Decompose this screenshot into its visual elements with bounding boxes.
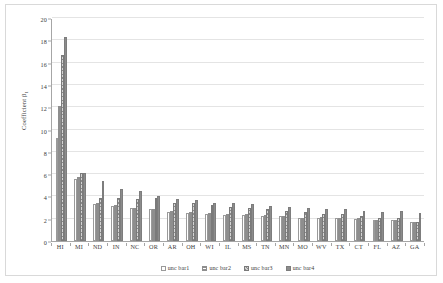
x-tick-mark (424, 243, 425, 246)
y-tick-label: 4 (44, 194, 47, 201)
x-tick-mark (182, 243, 183, 246)
x-tick-mark (219, 243, 220, 246)
bar[interactable] (251, 204, 254, 241)
x-tick-label: CT (355, 243, 363, 250)
chart-legend: unc bar1unc bar2unc bar3unc bar4 (51, 262, 424, 274)
x-tick-mark (405, 243, 406, 246)
legend-item[interactable]: unc bar3 (244, 265, 273, 271)
bar-group (369, 19, 388, 241)
bar[interactable] (232, 203, 235, 241)
y-tick-label: 0 (44, 239, 47, 246)
legend-item[interactable]: unc bar1 (161, 265, 190, 271)
x-tick-mark (275, 243, 276, 246)
x-tick-label: MS (242, 243, 251, 250)
x-tick-mark (256, 243, 257, 246)
bar-group (145, 19, 164, 241)
x-tick-mark (200, 243, 201, 246)
bar[interactable] (269, 206, 272, 241)
plot-inner (51, 19, 424, 242)
y-tick-label: 20 (41, 16, 47, 23)
bar[interactable] (83, 173, 86, 241)
x-tick-label: MO (298, 243, 308, 250)
x-tick-mark (387, 243, 388, 246)
x-tick-label: IL (225, 243, 231, 250)
bar[interactable] (139, 191, 142, 241)
bar[interactable] (213, 203, 216, 241)
bar-group (406, 19, 425, 241)
x-tick-label: OH (186, 243, 195, 250)
x-tick-label: HI (57, 243, 64, 250)
bar[interactable] (120, 189, 123, 241)
x-tick-mark (126, 243, 127, 246)
bar[interactable] (400, 211, 403, 241)
bar[interactable] (64, 37, 67, 241)
bar[interactable] (344, 209, 347, 241)
y-tick-label: 16 (41, 60, 47, 67)
legend-swatch (244, 266, 249, 271)
legend-item[interactable]: unc bar4 (286, 265, 315, 271)
legend-label: unc bar4 (293, 265, 315, 271)
bar-group (313, 19, 332, 241)
bar-group (220, 19, 239, 241)
x-tick-label: MI (75, 243, 83, 250)
x-tick-mark (349, 243, 350, 246)
bar[interactable] (288, 207, 291, 241)
x-tick-mark (88, 243, 89, 246)
bar-group (201, 19, 220, 241)
bar-group (71, 19, 90, 241)
x-tick-mark (331, 243, 332, 246)
x-tick-label: WI (205, 243, 213, 250)
y-tick-label: 18 (41, 38, 47, 45)
x-tick-mark (70, 243, 71, 246)
bar-group (183, 19, 202, 241)
bar[interactable] (195, 200, 198, 241)
y-tick-label: 12 (41, 105, 47, 112)
x-tick-label: NC (130, 243, 139, 250)
y-tick-label: 14 (41, 82, 47, 89)
x-tick-label: TN (261, 243, 270, 250)
x-tick-label: AR (168, 243, 177, 250)
bar[interactable] (157, 196, 160, 241)
x-tick-label: FL (374, 243, 382, 250)
x-tick-mark (293, 243, 294, 246)
y-axis-ticks: 02468101214161820 (6, 19, 51, 242)
legend-item[interactable]: unc bar2 (202, 265, 231, 271)
y-tick-label: 8 (44, 149, 47, 156)
y-tick-label: 2 (44, 216, 47, 223)
plot-area (51, 19, 424, 242)
legend-swatch (286, 266, 291, 271)
bar-group (127, 19, 146, 241)
bar[interactable] (307, 208, 310, 241)
legend-swatch (161, 266, 166, 271)
x-tick-label: IN (113, 243, 120, 250)
bar-group (388, 19, 407, 241)
gridline (52, 17, 424, 18)
x-tick-label: WV (316, 243, 327, 250)
bar-group (108, 19, 127, 241)
bar[interactable] (176, 199, 179, 241)
bar-group (276, 19, 295, 241)
x-tick-mark (368, 243, 369, 246)
bar-group (294, 19, 313, 241)
x-tick-mark (312, 243, 313, 246)
x-tick-mark (163, 243, 164, 246)
x-tick-label: MN (279, 243, 289, 250)
x-tick-mark (51, 243, 52, 246)
legend-label: unc bar3 (251, 265, 273, 271)
bar[interactable] (325, 209, 328, 241)
x-tick-label: ND (93, 243, 102, 250)
bar[interactable] (102, 181, 105, 241)
bar-group (52, 19, 71, 241)
bar[interactable] (381, 212, 384, 241)
x-tick-mark (107, 243, 108, 246)
x-tick-label: OR (149, 243, 158, 250)
bar[interactable] (363, 211, 366, 241)
x-axis-labels: HIMINDINNCORAROHWIILMSTNMNMOWVTXCTFLAZGA (51, 243, 424, 255)
legend-label: unc bar1 (168, 265, 190, 271)
bar-group (257, 19, 276, 241)
bar-group (239, 19, 258, 241)
bar-group (350, 19, 369, 241)
bar-group (332, 19, 351, 241)
bar[interactable] (419, 213, 422, 241)
chart-frame: Coefficient β1 02468101214161820 HIMINDI… (5, 4, 437, 276)
